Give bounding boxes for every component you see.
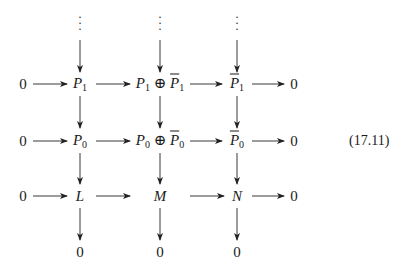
node-P1-plus-Pbar1: P1 ⊕ P1: [136, 76, 184, 93]
vdots-col2: ···: [157, 14, 163, 32]
vdots-col1: ···: [77, 14, 83, 32]
node-zero-bottom-col2: 0: [156, 245, 164, 260]
node-zero-bottom-col3: 0: [233, 245, 241, 260]
node-zero-left-row3: 0: [19, 189, 27, 204]
node-zero-right-row3: 0: [290, 189, 298, 204]
node-P1: P1: [73, 76, 87, 93]
node-zero-bottom-col1: 0: [76, 245, 84, 260]
node-P0: P0: [73, 133, 87, 150]
node-P0-plus-Pbar0: P0 ⊕ P0: [136, 133, 184, 150]
node-Pbar1: P1: [230, 76, 244, 93]
equation-number: (17.11): [349, 133, 389, 149]
node-zero-right-row1: 0: [290, 77, 298, 92]
node-L: L: [76, 189, 84, 204]
node-zero-left-row1: 0: [19, 77, 27, 92]
arrows-layer: [0, 0, 407, 269]
node-zero-left-row2: 0: [19, 134, 27, 149]
vdots-col3: ···: [234, 14, 240, 32]
node-N: N: [232, 189, 242, 204]
node-M: M: [154, 189, 167, 204]
node-zero-right-row2: 0: [290, 134, 298, 149]
node-Pbar0: P0: [230, 133, 244, 150]
